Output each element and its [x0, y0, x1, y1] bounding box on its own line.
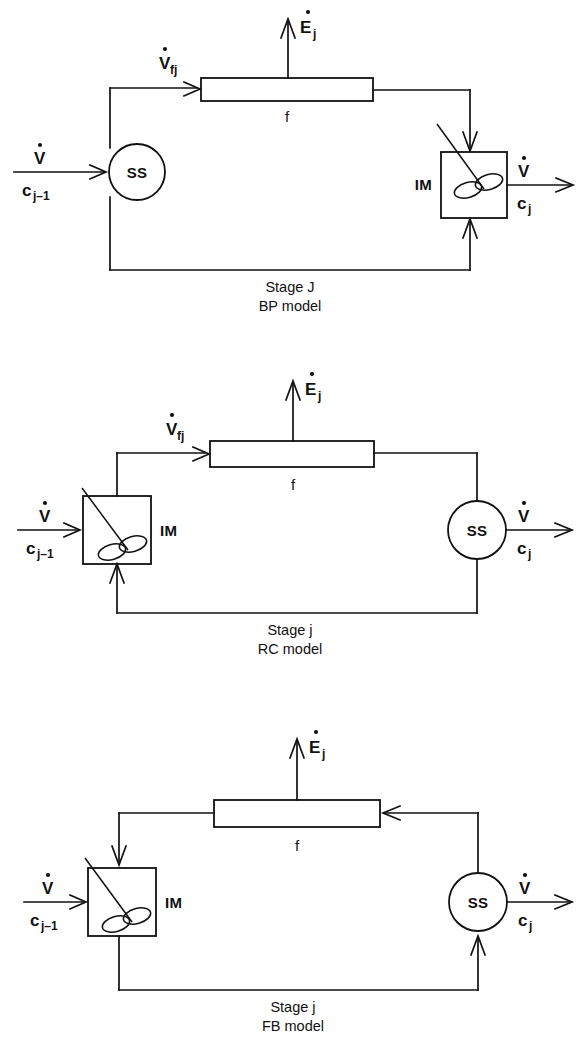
bp-model-svg: V c j–1 SS V fj: [0, 0, 585, 330]
fb-vent-arrow: [290, 739, 304, 800]
rc-outlet-conc-symbol: c: [517, 539, 526, 558]
bp-feed-flow-sub: fj: [170, 63, 177, 77]
bp-inlet-conc-sub: j–1: [32, 189, 50, 203]
bp-outlet-flow-symbol: V: [518, 162, 530, 181]
bp-ss-label: SS: [127, 164, 148, 181]
rc-model-svg: V c j–1 IM V fj: [0, 330, 585, 670]
rc-inlet-conc-symbol: c: [26, 539, 35, 558]
rc-caption-line2: RC model: [258, 641, 322, 657]
rc-caption: Stage j RC model: [258, 622, 322, 657]
bp-outlet-conc-sub: j: [527, 202, 531, 216]
rc-vent-arrow: [286, 381, 300, 441]
fb-outlet-label-group: V c j: [518, 873, 532, 933]
fb-inlet-label-group: V c j–1: [30, 873, 58, 933]
bp-caption-line1: Stage J: [265, 279, 314, 295]
vfj-dot-mark: [170, 413, 174, 417]
bp-filter-to-im-path: [373, 90, 477, 151]
fb-filter-to-im-path: [112, 813, 213, 865]
rc-ss-label: SS: [467, 522, 488, 539]
bp-inlet-arrow: [14, 165, 106, 179]
fb-outlet-conc-sub: j: [528, 919, 532, 933]
rc-vent-symbol: E: [305, 380, 316, 399]
fb-model-svg: V c j–1 IM f: [0, 670, 585, 1037]
rc-inlet-flow-symbol: V: [39, 507, 51, 526]
fb-node-ss: SS: [449, 873, 507, 931]
fb-bottom-path: [119, 936, 485, 990]
rc-outlet-conc-sub: j: [527, 547, 531, 561]
rc-outlet-arrow: [506, 523, 572, 537]
rc-vent-sub: j: [317, 389, 321, 403]
panel-bp-model: V c j–1 SS V fj: [0, 0, 585, 330]
bp-node-filter: f: [201, 78, 373, 125]
fb-caption-line1: Stage j: [270, 999, 315, 1015]
vfj-dot-mark: [163, 47, 167, 51]
rc-node-im: IM: [82, 488, 177, 564]
rc-feed-flow-sub: fj: [177, 429, 184, 443]
rc-inlet-conc-sub: j–1: [36, 547, 54, 561]
rc-node-ss: SS: [448, 501, 506, 559]
fb-vent-sub: j: [321, 747, 325, 761]
rc-node-filter: f: [210, 441, 374, 493]
bp-inlet-flow-symbol: V: [34, 149, 46, 168]
v-out-dot-mark: [522, 501, 526, 505]
rc-vent-label-group: E j: [305, 372, 321, 403]
panel-fb-model: V c j–1 IM f: [0, 670, 585, 1037]
fb-inlet-conc-sub: j–1: [40, 919, 58, 933]
bp-caption-line2: BP model: [259, 298, 322, 314]
rc-recycle-loop: [110, 559, 477, 613]
fb-outlet-conc-symbol: c: [518, 911, 527, 930]
bp-node-im: IM: [415, 124, 507, 218]
bp-inlet-conc-symbol: c: [22, 181, 31, 200]
bp-recycle-loop: [110, 197, 477, 270]
rc-outlet-label-group: V c j: [517, 501, 531, 561]
bp-outlet-arrow: [507, 178, 573, 192]
fb-vent-label-group: E j: [309, 730, 325, 761]
fb-inlet-conc-symbol: c: [30, 911, 39, 930]
fb-vent-symbol: E: [309, 738, 320, 757]
fb-ss-label: SS: [468, 894, 489, 911]
bp-filter-label: f: [285, 108, 290, 125]
bp-feed-label-group: V fj: [159, 47, 177, 77]
v-out-dot-mark: [522, 156, 526, 160]
ej-dot-mark: [314, 730, 318, 734]
bp-outlet-label-group: V c j: [517, 156, 531, 216]
v-dot-mark: [38, 143, 42, 147]
fb-inlet-flow-symbol: V: [42, 879, 54, 898]
fb-im-label: IM: [165, 894, 182, 911]
rc-feed-label-group: V fj: [166, 413, 184, 443]
rc-filter-label: f: [291, 476, 296, 493]
fb-inlet-arrow: [24, 895, 86, 909]
v-out-dot-mark: [523, 873, 527, 877]
rc-caption-line1: Stage j: [267, 622, 312, 638]
fb-caption-line2: FB model: [262, 1018, 324, 1034]
v-dot-mark: [43, 501, 47, 505]
bp-outlet-conc-symbol: c: [517, 194, 526, 213]
bp-caption: Stage J BP model: [259, 279, 322, 314]
fb-node-im: IM: [85, 858, 182, 936]
bp-vent-symbol: E: [300, 18, 311, 37]
fb-filter-label: f: [295, 837, 300, 854]
rc-outlet-flow-symbol: V: [518, 507, 530, 526]
rc-feed-path: [117, 447, 209, 496]
bp-im-label: IM: [415, 176, 432, 193]
panel-rc-model: V c j–1 IM V fj: [0, 330, 585, 670]
bp-inlet-label-group: V c j–1: [22, 143, 50, 203]
v-dot-mark: [46, 873, 50, 877]
rc-im-label: IM: [160, 522, 177, 539]
fb-node-filter: f: [214, 800, 380, 854]
bp-node-ss: SS: [109, 144, 165, 200]
figure-page: V c j–1 SS V fj: [0, 0, 585, 1037]
ej-dot-mark: [306, 10, 310, 14]
bp-vent-label-group: E j: [300, 10, 316, 41]
rc-inlet-label-group: V c j–1: [26, 501, 54, 561]
bp-vent-sub: j: [312, 27, 316, 41]
ej-dot-mark: [310, 372, 314, 376]
fb-caption: Stage j FB model: [262, 999, 324, 1034]
fb-outlet-arrow: [507, 895, 572, 909]
rc-filter-to-ss-path: [374, 453, 477, 502]
bp-feed-path: [110, 82, 200, 148]
bp-vent-arrow: [281, 19, 295, 78]
fb-ss-to-filter-path: [383, 806, 478, 874]
fb-outlet-flow-symbol: V: [519, 879, 531, 898]
